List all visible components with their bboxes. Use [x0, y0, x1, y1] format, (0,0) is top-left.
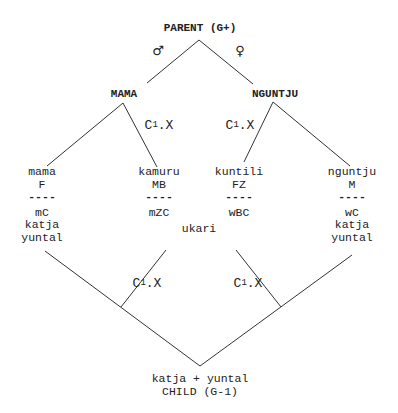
- relation-label-lower-right: C1.X: [234, 276, 263, 291]
- relation-superscript: 1: [140, 278, 145, 288]
- separator: ----: [328, 191, 376, 204]
- relation-base: C: [226, 118, 234, 133]
- term: nguntju: [328, 166, 376, 179]
- line: katja: [21, 219, 62, 232]
- relation-suffix: .X: [158, 118, 174, 133]
- relation-suffix: .X: [247, 276, 263, 291]
- relation-superscript: 1: [241, 278, 246, 288]
- relation-base: C: [145, 118, 153, 133]
- relation-superscript: 1: [233, 120, 238, 130]
- line-mama-to-mama-f: [47, 103, 123, 166]
- line: wBC: [215, 207, 263, 220]
- column-kuntili-fz: kuntili FZ ---- wBC: [215, 166, 263, 219]
- nguntju-node: NGUNTJU: [252, 88, 298, 100]
- line-nguntju-to-nguntju-m: [273, 102, 350, 166]
- kinship-diagram: PARENT (G+) ♂ ♀ MAMA NGUNTJU C1.X C1.X C…: [0, 0, 398, 413]
- relation-label-mama: C1.X: [145, 118, 174, 133]
- line: yuntal: [21, 232, 62, 245]
- term: kamuru: [138, 166, 179, 179]
- female-symbol-icon: ♀: [235, 43, 245, 58]
- column-mama-f: mama F ---- mC katja yuntal: [21, 166, 62, 244]
- relation-suffix: .X: [239, 118, 255, 133]
- relation-base: C: [234, 276, 242, 291]
- line-left-to-child: [45, 251, 200, 366]
- relation-superscript: 1: [152, 120, 157, 130]
- child-terms: katja + yuntal: [152, 373, 249, 385]
- term: mama: [21, 166, 62, 179]
- line: mZC: [138, 207, 179, 220]
- relation-label-lower-left: C1.X: [133, 276, 162, 291]
- line-parent-to-nguntju: [199, 40, 253, 84]
- separator: ----: [215, 191, 263, 204]
- relation-label-nguntju: C1.X: [226, 118, 255, 133]
- ukari-label: ukari: [182, 223, 217, 235]
- separator: ----: [21, 191, 62, 204]
- mama-node: MAMA: [111, 88, 137, 100]
- male-symbol-icon: ♂: [152, 43, 164, 58]
- line-mama-to-kamuru: [123, 103, 157, 167]
- term: kuntili: [215, 166, 263, 179]
- child-label: CHILD (G-1): [162, 386, 238, 398]
- line: yuntal: [328, 232, 376, 245]
- separator: ----: [138, 191, 179, 204]
- relation-suffix: .X: [146, 276, 162, 291]
- parent-label: PARENT (G+): [164, 22, 237, 34]
- line-right-to-child: [200, 255, 352, 366]
- relation-base: C: [133, 276, 141, 291]
- column-kamuru-mb: kamuru MB ---- mZC: [138, 166, 179, 219]
- line: katja: [328, 219, 376, 232]
- column-nguntju-m: nguntju M ---- wC katja yuntal: [328, 166, 376, 244]
